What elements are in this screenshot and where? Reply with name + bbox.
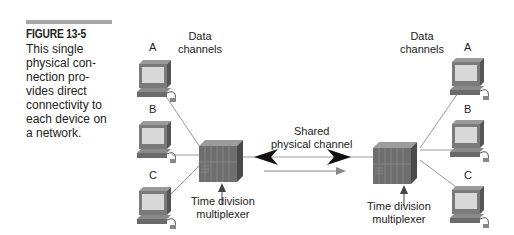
mux-label-left: Time division multiplexer [191,195,255,221]
label-line: multiplexer [367,213,431,226]
label-line: Data [400,30,444,43]
computer-icon-left-a [137,60,176,102]
label-line: channels [178,43,222,56]
computer-icon-right-c [450,186,489,228]
shared-channel [243,149,373,175]
left-data-channels [165,95,202,200]
multiplexer-icon-right [373,142,417,184]
device-label-left-b: B [149,103,156,116]
data-channels-label-right: Data channels [400,30,444,56]
computer-icon-left-c [137,187,176,229]
multiplexer-icon-left [199,140,243,182]
label-line: channels [400,43,444,56]
mux-label-right: Time division multiplexer [367,200,431,226]
device-label-left-c: C [149,169,157,182]
label-line: Time division [191,195,255,208]
device-label-right-b: B [464,103,471,116]
device-label-left-a: A [149,41,156,54]
computer-icon-right-b [450,120,489,162]
data-channels-label-left: Data channels [178,30,222,56]
shared-channel-label: Shared physical channel [271,125,352,151]
label-line: Shared [271,125,352,138]
device-label-right-a: A [464,41,471,54]
computer-icon-left-b [137,121,176,163]
label-line: physical channel [271,138,352,151]
label-line: multiplexer [191,208,255,221]
computer-icon-right-a [450,58,489,100]
label-line: Time division [367,200,431,213]
label-line: Data [178,30,222,43]
device-label-right-c: C [464,169,472,182]
